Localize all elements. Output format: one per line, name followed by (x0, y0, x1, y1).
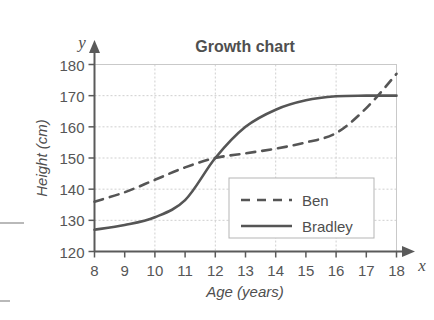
crop-mark (0, 300, 10, 302)
chart-legend: BenBradley (229, 178, 374, 238)
y-tick-label: 130 (59, 212, 84, 229)
x-tick-label: 9 (121, 262, 129, 279)
x-tick-label: 13 (237, 262, 254, 279)
chart-title: Growth chart (195, 38, 295, 55)
x-tick-label: 14 (267, 262, 284, 279)
y-tick-label: 150 (59, 150, 84, 167)
crop-mark (0, 222, 24, 224)
x-tick-label: 18 (388, 262, 405, 279)
legend-label-bradley: Bradley (302, 218, 353, 235)
legend-label-ben: Ben (302, 192, 329, 209)
x-tick-label: 10 (147, 262, 164, 279)
x-axis-title: Age (years) (205, 283, 284, 300)
x-tick-label: 16 (328, 262, 345, 279)
y-axis-tick-labels: 120130140150160170180 (59, 57, 84, 261)
chart-svg: 120130140150160170180 891011121314151617… (0, 0, 434, 320)
x-axis-arrow-icon (402, 246, 415, 257)
x-axis-name: x (417, 256, 426, 275)
y-tick-label: 140 (59, 181, 84, 198)
y-axis-arrow-icon (89, 40, 100, 53)
y-tick-label: 120 (59, 244, 84, 261)
growth-chart-figure: 120130140150160170180 891011121314151617… (0, 0, 434, 320)
x-tick-label: 8 (90, 262, 98, 279)
y-axis-title: Height (cm) (33, 119, 50, 197)
x-axis-tick-labels: 89101112131415161718 (90, 262, 405, 279)
x-tick-label: 15 (298, 262, 315, 279)
x-tick-label: 12 (207, 262, 224, 279)
x-tick-label: 17 (358, 262, 375, 279)
y-tick-label: 160 (59, 119, 84, 136)
x-tick-label: 11 (177, 262, 193, 279)
y-tick-label: 180 (59, 57, 84, 74)
y-axis-name: y (76, 33, 86, 52)
y-tick-label: 170 (59, 88, 84, 105)
